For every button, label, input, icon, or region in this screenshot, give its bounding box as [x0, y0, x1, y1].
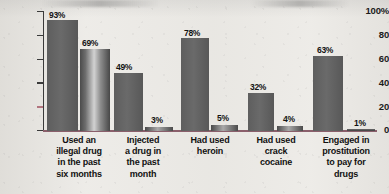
bar-2a	[114, 73, 143, 131]
bar-value-4a: 32%	[250, 82, 266, 92]
bar-value-5b: 1%	[354, 118, 366, 128]
bar-value-2a: 49%	[116, 62, 132, 72]
bar-3a	[181, 38, 209, 131]
bar-4a	[248, 93, 274, 131]
y-tick-label-80: 80	[355, 30, 389, 39]
y-tick-40	[37, 82, 43, 83]
y-tick-60	[37, 59, 43, 60]
bar-1a	[47, 20, 78, 131]
bar-value-4b: 4%	[283, 114, 295, 124]
y-tick-100	[37, 11, 43, 12]
bar-3b	[211, 125, 238, 131]
y-tick-0	[37, 130, 43, 131]
bar-chart: 100% 80 60 40 20 0 93% 69% Used an illeg…	[0, 0, 389, 194]
bar-value-2b: 3%	[151, 115, 163, 125]
bar-2b	[145, 127, 173, 131]
y-tick-label-60: 60	[355, 54, 389, 63]
bar-4b	[277, 126, 303, 131]
bar-value-3a: 78%	[184, 28, 200, 38]
plot-area: 100% 80 60 40 20 0 93% 69% Used an illeg…	[0, 0, 389, 194]
category-label-4: Had used crack cocaine	[238, 135, 314, 169]
bar-value-3b: 5%	[217, 113, 229, 123]
category-label-3: Had used heroin	[172, 135, 248, 157]
y-tick-label-20: 20	[355, 102, 389, 111]
y-tick-label-100: 100%	[355, 6, 389, 15]
bar-value-1b: 69%	[82, 38, 98, 48]
y-tick-label-40: 40	[355, 78, 389, 87]
y-tick-80	[37, 35, 43, 36]
bar-5b	[347, 129, 375, 131]
bar-value-5a: 63%	[317, 45, 333, 55]
bar-value-1a: 93%	[49, 10, 65, 20]
y-tick-20	[37, 106, 43, 107]
y-axis-line	[43, 11, 44, 131]
category-label-2: Injected a drug in the past month	[106, 135, 180, 180]
category-label-5: Engaged in prostitution to pay for drugs	[306, 135, 386, 180]
bar-5a	[313, 56, 343, 131]
bar-1b	[80, 49, 110, 131]
